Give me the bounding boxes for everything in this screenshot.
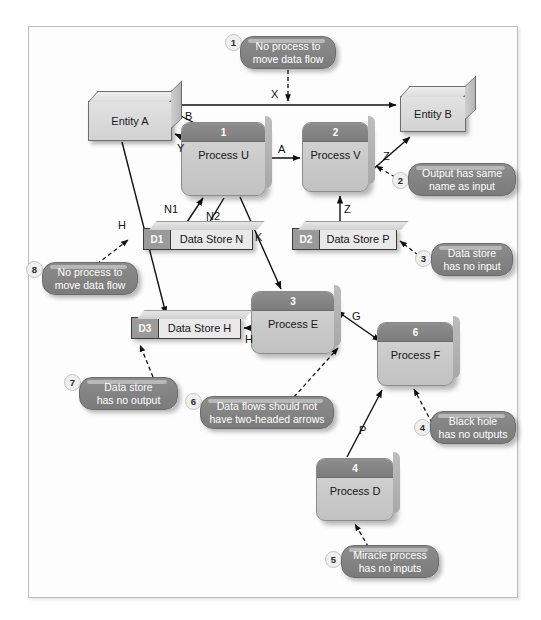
flow-y-label: Y (177, 142, 184, 154)
process-f-number: 6 (378, 323, 453, 342)
entity-a-top-face (88, 91, 180, 102)
entity-a-label: Entity A (111, 115, 148, 127)
store-p-code: D2 (293, 229, 320, 249)
callout-4-line2: has no outputs (439, 428, 508, 440)
callout-1[interactable]: No process to move data flow (240, 36, 336, 69)
process-u[interactable]: 1 Process U (181, 122, 266, 196)
flow-h-right-label: H (245, 333, 253, 345)
process-u-label: Process U (182, 141, 265, 195)
process-d-side-face (393, 452, 400, 513)
flow-n1-label: N1 (164, 203, 178, 215)
process-d[interactable]: 4 Process D (316, 458, 394, 521)
store-n-label: Data Store N (171, 229, 252, 249)
process-f-label: Process F (378, 341, 453, 385)
process-v-side-face (368, 116, 375, 184)
callout-7-line1: Data store (104, 381, 152, 393)
callout-1-line1: No process to (256, 40, 321, 52)
process-v-number: 2 (303, 123, 368, 142)
callout-8[interactable]: No process to move data flow (42, 262, 138, 295)
store-p-top-face (298, 221, 409, 230)
callout-4-badge: 4 (414, 419, 431, 436)
flow-b-label: B (185, 110, 192, 122)
process-e-number: 3 (252, 292, 334, 311)
process-d-number: 4 (317, 459, 393, 478)
store-h-label: Data Store H (159, 318, 240, 338)
callout-1-line2: move data flow (253, 53, 324, 65)
process-f-side-face (453, 316, 460, 378)
callout-8-line1: No process to (58, 266, 123, 278)
callout-2[interactable]: Output has same name as input (408, 163, 516, 196)
callout-2-line1: Output has same (422, 167, 502, 179)
flow-a-label: A (278, 143, 285, 155)
callout-5-line2: has no inputs (359, 562, 421, 574)
flow-x-label: X (271, 88, 278, 100)
store-h-top-face (137, 310, 253, 319)
store-n[interactable]: D1 Data Store N (143, 228, 253, 250)
process-u-number: 1 (182, 123, 265, 142)
flow-z-out-label: Z (383, 150, 390, 162)
callout-6[interactable]: Data flows should not have two-headed ar… (200, 396, 334, 429)
entity-a[interactable]: Entity A (88, 101, 172, 141)
callout-7[interactable]: Data store has no output (79, 377, 178, 410)
flow-p-label: P (359, 424, 366, 436)
process-d-label: Process D (317, 477, 393, 520)
flow-k-label: K (255, 231, 262, 243)
callout-4[interactable]: Black hole has no outputs (430, 411, 516, 444)
entity-b-top-face (400, 86, 474, 97)
store-n-top-face (149, 221, 265, 230)
process-v[interactable]: 2 Process V (302, 122, 369, 192)
callout-3[interactable]: Data store has no input (431, 243, 513, 276)
entity-b[interactable]: Entity B (400, 96, 466, 132)
process-u-side-face (265, 116, 272, 188)
callout-7-line2: has no output (97, 394, 161, 406)
store-h[interactable]: D3 Data Store H (131, 317, 241, 339)
store-p[interactable]: D2 Data Store P (292, 228, 397, 250)
callout-3-badge: 3 (415, 250, 432, 267)
flow-h-left-label: H (118, 219, 126, 231)
flow-z-in-label: Z (344, 203, 351, 215)
store-p-label: Data Store P (320, 229, 396, 249)
flow-n2-label: N2 (206, 210, 220, 222)
diagram-canvas: Entity A Entity B 1 Process U 2 Process … (0, 0, 541, 620)
entity-b-label: Entity B (414, 108, 452, 120)
store-h-code: D3 (132, 318, 159, 338)
callout-2-badge: 2 (392, 172, 409, 189)
store-n-code: D1 (144, 229, 171, 249)
callout-6-line1: Data flows should not (217, 400, 317, 412)
process-e-side-face (334, 285, 341, 346)
callout-4-line1: Black hole (449, 415, 497, 427)
callout-5-badge: 5 (325, 551, 342, 568)
callout-5-line1: Miracle process (353, 549, 427, 561)
process-e[interactable]: 3 Process E (251, 291, 335, 354)
callout-8-line2: move data flow (55, 279, 126, 291)
flow-g-label: G (352, 310, 361, 322)
callout-5[interactable]: Miracle process has no inputs (341, 545, 439, 578)
callout-2-line2: name as input (429, 180, 495, 192)
process-e-label: Process E (252, 310, 334, 353)
process-v-label: Process V (303, 141, 368, 191)
callout-8-badge: 8 (26, 261, 43, 278)
callout-3-line1: Data store (448, 247, 496, 259)
callout-6-line2: have two-headed arrows (210, 413, 325, 425)
callout-3-line2: has no input (443, 260, 500, 272)
process-f[interactable]: 6 Process F (377, 322, 454, 386)
